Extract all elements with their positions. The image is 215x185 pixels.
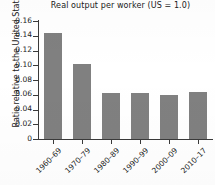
y-axis-tick — [33, 110, 38, 111]
y-axis-tick — [33, 80, 38, 81]
x-axis-tick — [140, 140, 141, 144]
bar — [189, 92, 207, 139]
y-axis-tick-label: 0.16 — [6, 17, 32, 25]
y-axis-tick — [33, 36, 38, 37]
y-axis-tick — [33, 95, 38, 96]
x-axis-tick — [198, 140, 199, 144]
bar — [73, 64, 91, 139]
y-axis-tick-label: 0.08 — [6, 76, 32, 84]
bar — [44, 33, 62, 139]
y-axis-tick — [33, 139, 38, 140]
y-axis-tick-label: 0.10 — [6, 61, 32, 69]
y-axis-tick-label: 0.12 — [6, 46, 32, 54]
y-axis-tick-label: 0.14 — [6, 31, 32, 39]
chart-figure: Real output per worker (US = 1.0) Ratio … — [0, 0, 215, 185]
bar — [131, 93, 149, 139]
x-axis-line — [38, 139, 213, 140]
y-axis-tick — [33, 21, 38, 22]
chart-title: Real output per worker (US = 1.0) — [28, 1, 213, 11]
x-axis-tick — [53, 140, 54, 144]
y-axis-line — [38, 20, 39, 140]
y-axis-tick-label: 0.06 — [6, 90, 32, 98]
y-axis-tick — [33, 124, 38, 125]
y-axis-tick-label: 0.04 — [6, 105, 32, 113]
x-axis-tick — [169, 140, 170, 144]
bar — [102, 93, 120, 139]
y-axis-tick-label: 0 — [6, 135, 32, 143]
bar — [160, 95, 178, 139]
x-axis-tick — [82, 140, 83, 144]
y-axis-tick — [33, 65, 38, 66]
y-axis-tick-labels: 00.020.040.060.080.100.120.140.16 — [4, 0, 32, 185]
x-axis-tick — [111, 140, 112, 144]
y-axis-tick-label: 0.02 — [6, 120, 32, 128]
y-axis-tick — [33, 51, 38, 52]
